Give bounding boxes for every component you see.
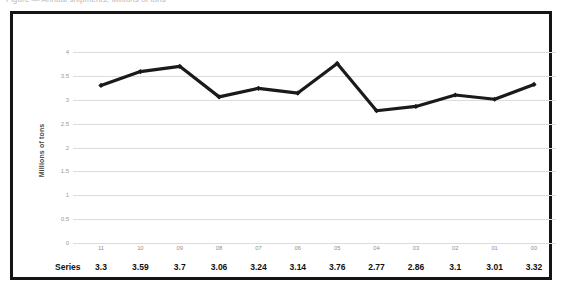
table-cell-value: 3.32 [526,262,543,272]
table-cell-value: 3.76 [329,262,346,272]
x-axis-tick-label: 06 [295,245,301,251]
table-cell-value: 3.3 [95,262,107,272]
x-axis-tick-label: 07 [255,245,261,251]
x-axis-tick-label: 11 [98,245,104,251]
series-line [101,63,534,110]
table-row-header: Series [55,262,81,272]
figure-frame: Millions of tons 00.511.522.533.54 11100… [10,11,552,280]
series-data-table: Series 3.33.593.73.063.243.143.762.772.8… [27,262,552,280]
y-axis-tick-label: 0.5 [61,216,69,222]
y-axis-tick-label: 1.5 [61,168,69,174]
table-cell-value: 3.14 [290,262,307,272]
gridline [73,243,556,244]
x-axis-tick-label: 10 [137,245,143,251]
table-cell-value: 3.01 [486,262,503,272]
x-axis-tick-label: 01 [491,245,497,251]
y-axis-tick-label: 1 [66,192,69,198]
y-axis-tick-label: 2 [66,145,69,151]
y-axis-tick-label: 3 [66,97,69,103]
table-cell-value: 2.77 [368,262,385,272]
x-axis-tick-label: 05 [334,245,340,251]
table-cell-value: 3.1 [449,262,461,272]
y-axis-title-label: Millions of tons [39,123,46,177]
figure-caption-text: Figure — Annual shipments, Millions of t… [6,0,166,4]
y-axis-tick-label: 0 [66,240,69,246]
y-axis-tick-label: 2.5 [61,121,69,127]
table-cell-value: 3.59 [132,262,149,272]
y-axis-title: Millions of tons [35,110,49,190]
chart-plot-area: 00.511.522.533.54 [73,52,556,243]
table-cell-value: 3.7 [174,262,186,272]
table-cell-value: 3.06 [211,262,228,272]
x-axis-tick-label: 08 [216,245,222,251]
x-axis-tick-label: 03 [413,245,419,251]
table-cell-value: 3.24 [250,262,267,272]
figure-caption-strip: Figure — Annual shipments, Millions of t… [0,0,566,9]
x-axis-tick-label: 00 [531,245,537,251]
table-cell-value: 2.86 [408,262,425,272]
line-series-svg [73,52,556,243]
x-axis-tick-label: 02 [452,245,458,251]
x-axis-tick-label: 09 [176,245,182,251]
x-axis-tick-labels: 111009080706050403020100 [73,245,556,257]
y-axis-tick-label: 3.5 [61,73,69,79]
x-axis-tick-label: 04 [373,245,379,251]
y-axis-tick-label: 4 [66,49,69,55]
